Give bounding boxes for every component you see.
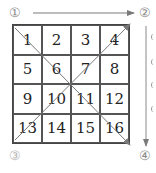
diagonal-arrow-main: [15, 28, 130, 145]
arrows-layer: [0, 0, 156, 173]
cropped-glyph: [151, 106, 156, 112]
cropped-glyph: [151, 82, 156, 88]
cropped-glyph: [151, 59, 156, 65]
cropped-glyph: [151, 34, 156, 40]
diagonal-arrow-anti: [15, 24, 130, 140]
